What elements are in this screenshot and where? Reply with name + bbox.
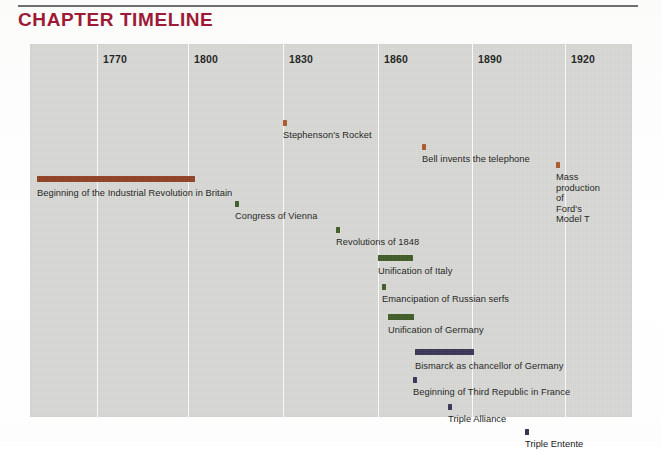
event-label-triple-alliance: Triple Alliance [448, 414, 506, 425]
event-label-mass-production-of: Mass production of Ford's Model T [556, 172, 600, 225]
event-label-beginning-of-the-industrial-revolution-i: Beginning of the Industrial Revolution i… [37, 188, 232, 199]
event-label-unification-of-italy: Unification of Italy [378, 266, 452, 277]
event-marker-mass-production-of [556, 162, 560, 168]
event-marker-bell-invents-the-telephone [422, 144, 426, 150]
event-label-emancipation-of-russian-serfs: Emancipation of Russian serfs [382, 294, 509, 305]
year-label-1890: 1890 [478, 53, 502, 65]
header-divider-rule [18, 5, 638, 7]
event-label-triple-entente: Triple Entente [525, 439, 583, 450]
event-label-beginning-of-third-republic-in-france: Beginning of Third Republic in France [413, 387, 570, 398]
event-label-unification-of-germany: Unification of Germany [388, 325, 484, 336]
event-marker-congress-of-vienna [235, 201, 239, 207]
event-marker-stephenson-s-rocket [283, 120, 287, 126]
event-marker-bismarck-as-chancellor-of-germany [415, 349, 474, 355]
event-marker-revolutions-of-1848 [336, 227, 340, 233]
gridline-1920 [565, 44, 566, 417]
event-marker-unification-of-germany [388, 314, 414, 320]
gridline-1770 [97, 44, 98, 417]
event-marker-unification-of-italy [378, 255, 413, 261]
year-label-1830: 1830 [289, 53, 313, 65]
timeline-chart-panel: 177018001830186018901920 Stephenson's Ro… [30, 44, 632, 417]
year-label-1800: 1800 [194, 53, 218, 65]
year-label-1860: 1860 [384, 53, 408, 65]
event-label-revolutions-of-1848: Revolutions of 1848 [336, 237, 419, 248]
page-title: CHAPTER TIMELINE [18, 9, 213, 31]
event-marker-beginning-of-the-industrial-revolution-i [37, 176, 195, 182]
gridline-1860 [378, 44, 379, 417]
event-marker-beginning-of-third-republic-in-france [413, 377, 417, 383]
year-label-1770: 1770 [103, 53, 127, 65]
event-label-bell-invents-the-telephone: Bell invents the telephone [422, 154, 530, 165]
year-label-1920: 1920 [571, 53, 595, 65]
event-label-congress-of-vienna: Congress of Vienna [235, 211, 317, 222]
event-label-bismarck-as-chancellor-of-germany: Bismarck as chancellor of Germany [415, 361, 563, 372]
event-label-stephenson-s-rocket: Stephenson's Rocket [283, 130, 372, 141]
gridline-1800 [188, 44, 189, 417]
gridline-1830 [283, 44, 284, 417]
event-marker-triple-alliance [448, 404, 452, 410]
event-marker-triple-entente [525, 429, 529, 435]
event-marker-emancipation-of-russian-serfs [382, 284, 386, 290]
